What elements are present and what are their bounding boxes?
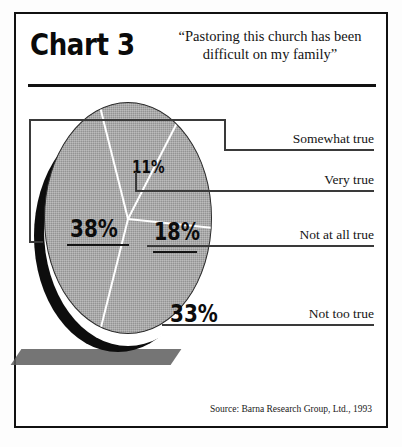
value-underline-not-at-all (153, 251, 197, 253)
leader-line-very-true (135, 190, 374, 192)
pie-chart: 38% 11% 18% 33% (22, 94, 222, 384)
slice-value-very-true: 11% (132, 157, 165, 177)
chart-header: Chart 3 “Pastoring this church has been … (16, 14, 386, 84)
chart-page: Chart 3 “Pastoring this church has been … (0, 0, 402, 447)
legend-label-very-true: Very true (324, 172, 374, 188)
leader-stub-very-true (135, 172, 137, 191)
leader-line-not-at-all-true (147, 245, 374, 247)
header-divider-rule (28, 84, 376, 87)
legend-label-somewhat-true: Somewhat true (293, 131, 374, 147)
leader-bracket-top (29, 119, 225, 121)
leader-line-not-too-true (162, 324, 374, 326)
leader-bracket-right (224, 119, 226, 149)
value-underline-somewhat (67, 244, 129, 246)
legend-label-not-too-true: Not too true (309, 306, 374, 322)
chart-number-title: Chart 3 (30, 26, 135, 62)
quote-line-2: difficult on my family” (156, 46, 384, 64)
chart-body: 38% 11% 18% 33% Somewhat true Very true … (16, 88, 386, 398)
quote-line-1: “Pastoring this church has been (156, 28, 384, 46)
chart-question-quote: “Pastoring this church has been difficul… (156, 28, 384, 63)
pie-drop-shadow (11, 349, 182, 365)
slice-value-not-at-all-true: 18% (154, 218, 200, 246)
slice-value-somewhat-true: 38% (70, 214, 118, 243)
legend-label-not-at-all-true: Not at all true (299, 227, 374, 243)
leader-line-somewhat-true (224, 149, 374, 151)
leader-bracket-left (29, 119, 31, 242)
leader-bracket-bottom (29, 241, 43, 243)
chart-frame: Chart 3 “Pastoring this church has been … (14, 12, 388, 428)
source-attribution: Source: Barna Research Group, Ltd., 1993 (210, 404, 372, 414)
